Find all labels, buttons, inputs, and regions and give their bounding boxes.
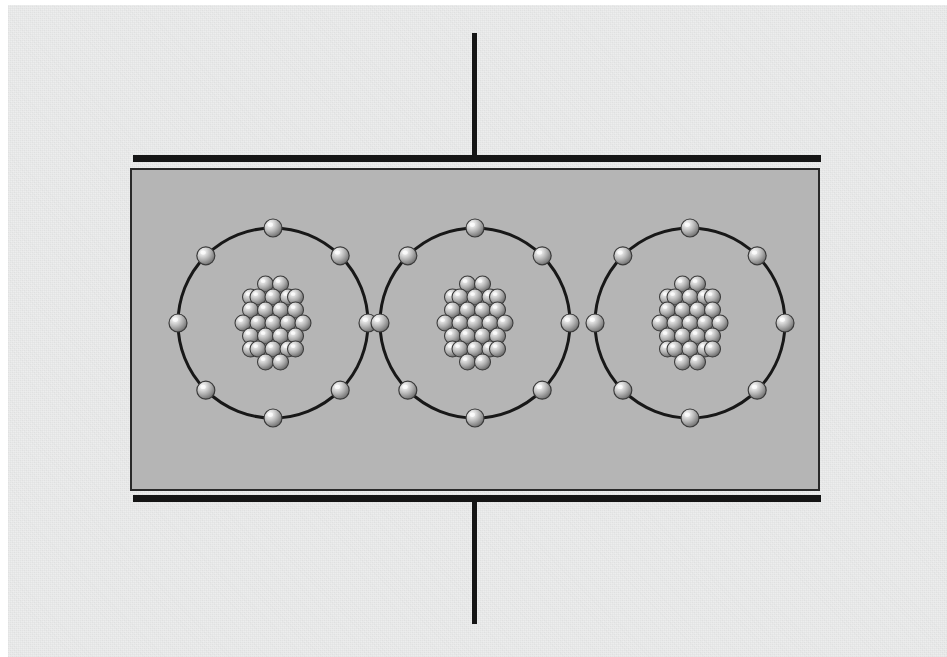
electron [681, 409, 699, 427]
top-capacitor-plate [133, 155, 821, 162]
electron [264, 219, 282, 237]
nucleon [490, 341, 506, 357]
electron [399, 381, 417, 399]
electron [399, 247, 417, 265]
bottom-lead-wire [472, 501, 477, 624]
electron [197, 247, 215, 265]
electron [466, 219, 484, 237]
electron [748, 247, 766, 265]
electron [614, 247, 632, 265]
nucleon [258, 354, 274, 370]
electron [197, 381, 215, 399]
capacitor-dielectric-diagram [0, 0, 947, 657]
top-lead-wire [472, 33, 477, 156]
nucleon [675, 354, 691, 370]
electron [371, 314, 389, 332]
electron [466, 409, 484, 427]
nucleon [460, 354, 476, 370]
nucleus-1 [235, 276, 311, 370]
figure-root [0, 0, 947, 657]
nucleon [690, 354, 706, 370]
nucleus-2 [437, 276, 513, 370]
electron [169, 314, 187, 332]
electron [614, 381, 632, 399]
electron [533, 247, 551, 265]
electron [331, 247, 349, 265]
nucleus-3 [652, 276, 728, 370]
electron [331, 381, 349, 399]
bottom-capacitor-plate [133, 495, 821, 502]
electron [748, 381, 766, 399]
nucleon [475, 354, 491, 370]
nucleon [288, 341, 304, 357]
nucleon [273, 354, 289, 370]
electron [776, 314, 794, 332]
electron [586, 314, 604, 332]
nucleon [705, 341, 721, 357]
electron [264, 409, 282, 427]
electron [561, 314, 579, 332]
electron [533, 381, 551, 399]
electron [681, 219, 699, 237]
